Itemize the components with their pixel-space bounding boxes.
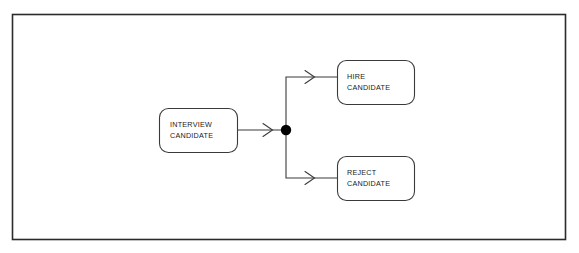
activity-node-reject-candidate[interactable]: REJECT CANDIDATE (338, 157, 415, 201)
uml-activity-diagram: INTERVIEW CANDIDATE HIRE CANDIDATE REJEC… (0, 0, 579, 253)
diagram-canvas: INTERVIEW CANDIDATE HIRE CANDIDATE REJEC… (0, 0, 579, 253)
activity-node-interview-candidate[interactable]: INTERVIEW CANDIDATE (160, 109, 238, 153)
node-label-line-2: CANDIDATE (347, 83, 390, 92)
activity-node-hire-candidate[interactable]: HIRE CANDIDATE (338, 61, 415, 105)
connector-junction-to-reject[interactable] (286, 134, 337, 185)
connector-junction-to-hire[interactable] (286, 71, 337, 127)
connector-interview-to-junction[interactable] (238, 124, 281, 137)
node-label-line-2: CANDIDATE (170, 131, 213, 140)
connector-line (286, 134, 337, 178)
fork-junction-node[interactable] (281, 125, 291, 135)
connector-line (286, 77, 337, 126)
node-label-line-1: REJECT (347, 168, 377, 177)
node-label-line-2: CANDIDATE (347, 179, 390, 188)
node-label-line-1: INTERVIEW (170, 120, 212, 129)
node-label-line-1: HIRE (347, 72, 365, 81)
